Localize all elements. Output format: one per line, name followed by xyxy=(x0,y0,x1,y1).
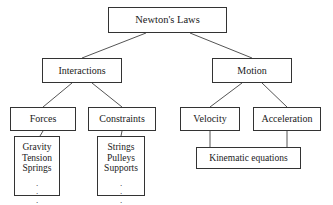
node-forces[interactable]: Forces xyxy=(10,107,76,131)
edge-newtons-laws-to-motion xyxy=(190,33,252,58)
vertical-ellipsis-icon: ... xyxy=(120,179,122,205)
node-force-types-line-2: Tension xyxy=(22,153,52,164)
node-kinematic-equations[interactable]: Kinematic equations xyxy=(196,147,301,169)
edge-motion-to-acceleration xyxy=(262,83,287,107)
vertical-ellipsis-icon: ... xyxy=(36,179,38,205)
node-newtons-laws-label: Newton's Laws xyxy=(135,14,200,26)
node-force-types[interactable]: Gravity Tension Springs ... xyxy=(14,136,60,196)
node-constraints-label: Constraints xyxy=(99,113,145,124)
node-force-types-line-1: Gravity xyxy=(22,142,51,153)
newtons-laws-tree-diagram: Newton's Laws Interactions Motion Forces… xyxy=(0,0,333,205)
node-constraints[interactable]: Constraints xyxy=(88,107,156,131)
edge-newtons-laws-to-interactions xyxy=(82,33,146,58)
node-kinematic-equations-label: Kinematic equations xyxy=(209,153,287,164)
node-constraint-types-line-2: Pulleys xyxy=(107,153,135,164)
node-motion-label: Motion xyxy=(237,65,266,76)
edge-motion-to-velocity xyxy=(210,83,242,107)
node-constraint-types-line-3: Supports xyxy=(104,163,138,174)
node-constraint-types[interactable]: Strings Pulleys Supports ... xyxy=(97,136,145,196)
node-velocity-label: Velocity xyxy=(193,113,226,124)
node-acceleration-label: Acceleration xyxy=(261,113,312,124)
node-forces-label: Forces xyxy=(30,113,57,124)
node-motion[interactable]: Motion xyxy=(212,58,292,83)
node-force-types-line-3: Springs xyxy=(22,163,51,174)
edge-interactions-to-constraints xyxy=(92,83,122,107)
node-constraint-types-line-1: Strings xyxy=(108,142,135,153)
node-newtons-laws[interactable]: Newton's Laws xyxy=(108,7,227,33)
node-interactions-label: Interactions xyxy=(58,65,105,76)
node-interactions[interactable]: Interactions xyxy=(42,58,122,83)
node-velocity[interactable]: Velocity xyxy=(180,107,240,131)
node-acceleration[interactable]: Acceleration xyxy=(253,107,321,131)
edge-interactions-to-forces xyxy=(43,83,72,107)
